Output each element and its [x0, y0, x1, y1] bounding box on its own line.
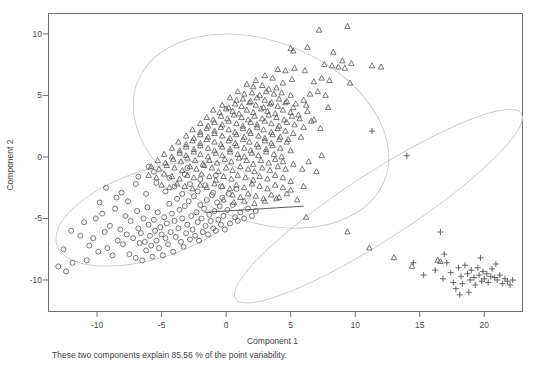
ellipse-cluster-1: [43, 140, 264, 287]
point-triangle: [212, 181, 217, 186]
point-circle: [166, 242, 171, 247]
plot-canvas: [0, 0, 545, 365]
point-circle: [175, 196, 180, 201]
point-circle: [190, 227, 195, 232]
point-plus: [468, 267, 474, 273]
point-triangle: [291, 105, 296, 110]
point-triangle: [241, 185, 246, 190]
point-triangle: [315, 89, 320, 94]
point-triangle: [283, 166, 288, 171]
point-triangle: [272, 156, 277, 161]
point-triangle: [267, 101, 272, 106]
point-triangle: [236, 155, 241, 160]
point-circle: [136, 174, 141, 179]
point-triangle: [340, 58, 345, 63]
point-circle: [158, 225, 163, 230]
point-triangle: [253, 78, 258, 83]
point-triangle: [176, 139, 181, 144]
y-tick-label: -10: [18, 275, 42, 285]
point-circle: [212, 209, 217, 214]
point-circle: [206, 232, 211, 237]
x-tick-label: -5: [158, 320, 166, 330]
y-tick-label: 10: [18, 29, 42, 39]
point-circle: [155, 210, 160, 215]
point-plus: [369, 128, 375, 134]
point-triangle: [238, 194, 243, 199]
point-triangle: [298, 134, 303, 139]
ellipse-cluster-3: [217, 86, 539, 327]
point-circle: [246, 206, 251, 211]
point-triangle: [378, 64, 383, 69]
point-triangle: [252, 169, 257, 174]
point-triangle: [178, 159, 183, 164]
point-triangle: [198, 182, 203, 187]
x-tick-label: 0: [224, 320, 229, 330]
point-circle: [135, 209, 140, 214]
point-triangle: [239, 103, 244, 108]
point-triangle: [289, 113, 294, 118]
point-triangle: [306, 159, 311, 164]
point-triangle: [191, 175, 196, 180]
point-triangle: [369, 63, 374, 68]
point-circle: [136, 226, 141, 231]
point-plus: [448, 270, 454, 276]
point-triangle: [302, 68, 307, 73]
point-plus: [493, 261, 499, 267]
point-triangle: [305, 108, 310, 113]
point-circle: [145, 205, 150, 210]
point-triangle: [192, 158, 197, 163]
point-triangle: [245, 166, 250, 171]
point-circle: [194, 210, 199, 215]
point-triangle: [239, 114, 244, 119]
point-circle: [105, 246, 110, 251]
point-triangle: [283, 100, 288, 105]
point-circle: [126, 199, 131, 204]
point-triangle: [345, 23, 350, 28]
point-circle: [172, 218, 177, 223]
point-triangle: [297, 116, 302, 121]
point-triangle: [167, 185, 172, 190]
point-triangle: [301, 124, 306, 129]
x-axis-title: Component 1: [0, 336, 545, 346]
point-triangle: [257, 174, 262, 179]
point-plus: [475, 265, 481, 271]
point-plus: [404, 153, 410, 159]
point-triangle: [216, 169, 221, 174]
point-triangle: [329, 63, 334, 68]
point-plus: [489, 266, 495, 272]
point-circle: [193, 233, 198, 238]
point-circle: [149, 243, 154, 248]
point-triangle: [256, 133, 261, 138]
point-circle: [197, 238, 202, 243]
point-triangle: [262, 73, 267, 78]
point-triangle: [252, 201, 257, 206]
point-circle: [153, 228, 158, 233]
point-circle: [168, 230, 173, 235]
point-circle: [127, 252, 132, 257]
point-triangle: [190, 127, 195, 132]
point-triangle: [207, 158, 212, 163]
point-triangle: [245, 191, 250, 196]
point-circle: [115, 238, 120, 243]
point-plus: [476, 272, 482, 278]
point-circle: [177, 207, 182, 212]
point-triangle: [198, 121, 203, 126]
point-circle: [144, 248, 149, 253]
point-circle: [150, 254, 155, 259]
point-circle: [249, 214, 254, 219]
point-circle: [93, 216, 98, 221]
point-circle: [133, 182, 138, 187]
point-plus: [455, 265, 461, 271]
point-triangle: [269, 121, 274, 126]
y-tick-label: -5: [18, 213, 42, 223]
point-triangle: [265, 186, 270, 191]
point-plus: [421, 272, 427, 278]
point-plus: [453, 286, 459, 292]
point-circle: [154, 180, 159, 185]
point-circle: [185, 222, 190, 227]
point-circle: [225, 207, 230, 212]
point-triangle: [244, 107, 249, 112]
point-triangle: [209, 165, 214, 170]
point-triangle: [227, 95, 232, 100]
point-circle: [172, 184, 177, 189]
